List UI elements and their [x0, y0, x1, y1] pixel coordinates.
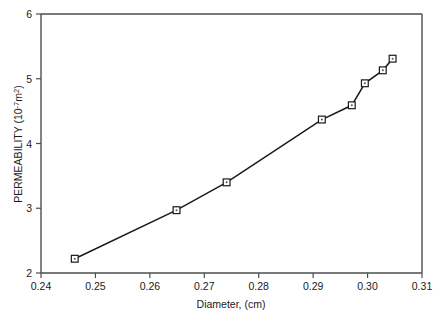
y-axis-ticks — [36, 14, 41, 273]
y-axis-title-unit: m — [12, 93, 24, 102]
data-point-center — [176, 209, 178, 211]
data-point-center — [364, 82, 366, 84]
x-tick-label: 0.26 — [140, 280, 161, 292]
y-axis-title-main: PERMEABILITY (10 — [12, 108, 24, 203]
x-tick-label: 0.24 — [31, 280, 52, 292]
y-tick-label: 2 — [26, 267, 32, 279]
x-axis-ticks — [41, 273, 422, 278]
permeability-vs-diameter-chart: 0.240.250.260.270.280.290.300.31 23456 D… — [0, 0, 441, 320]
chart-page: 0.240.250.260.270.280.290.300.31 23456 D… — [0, 0, 441, 320]
y-axis-tick-labels: 23456 — [26, 8, 32, 279]
plot-frame — [41, 14, 422, 273]
y-axis-title-exponent: -7 — [12, 102, 21, 109]
x-axis-tick-labels: 0.240.250.260.270.280.290.300.31 — [31, 280, 433, 292]
data-point-center — [392, 58, 394, 60]
x-tick-label: 0.28 — [248, 280, 269, 292]
data-point-center — [74, 258, 76, 260]
x-axis-title: Diameter, (cm) — [197, 298, 266, 310]
x-tick-label: 0.31 — [412, 280, 433, 292]
y-tick-label: 6 — [26, 8, 32, 20]
data-point-center — [382, 69, 384, 71]
y-tick-label: 4 — [26, 138, 32, 150]
y-tick-label: 3 — [26, 202, 32, 214]
y-axis-title: PERMEABILITY (10-7m2) — [12, 85, 25, 202]
x-tick-label: 0.25 — [85, 280, 106, 292]
x-tick-label: 0.29 — [303, 280, 324, 292]
data-point-center — [351, 104, 353, 106]
x-tick-label: 0.30 — [357, 280, 378, 292]
data-point-markers — [71, 55, 396, 262]
data-point-center — [226, 181, 228, 183]
data-series-line — [75, 59, 393, 259]
data-point-center — [321, 119, 323, 121]
x-tick-label: 0.27 — [194, 280, 215, 292]
y-tick-label: 5 — [26, 73, 32, 85]
y-axis-title-close: ) — [12, 85, 24, 89]
svg-text:PERMEABILITY (10-7m2): PERMEABILITY (10-7m2) — [12, 85, 25, 202]
